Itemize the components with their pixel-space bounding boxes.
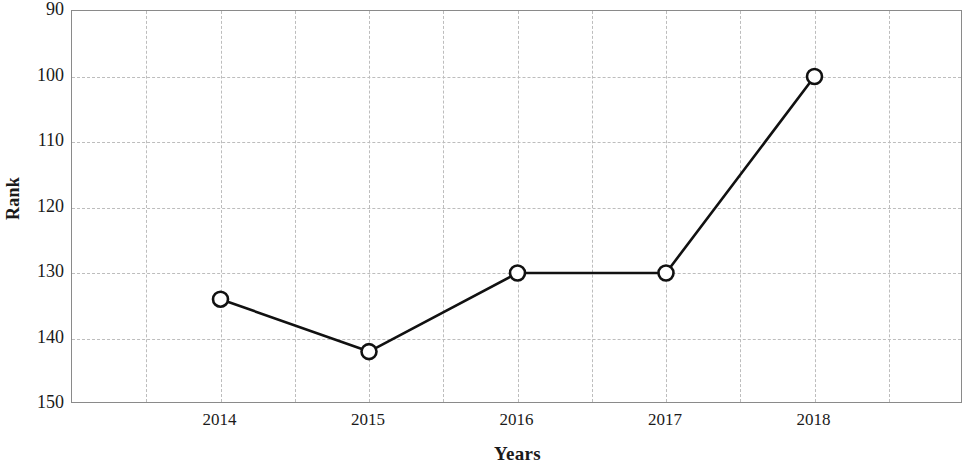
y-tick-label: 110 [0,131,64,149]
y-tick-label: 90 [0,0,64,18]
x-axis-title: Years [0,443,967,465]
y-tick-label: 100 [0,66,64,84]
rank-vs-years-line-chart: Rank 90100110120130140150 20142015201620… [0,0,967,472]
x-tick-label: 2016 [457,410,577,430]
data-point-marker [659,266,674,281]
y-tick-label: 140 [0,328,64,346]
rank-series-line [221,77,815,352]
data-point-marker [510,266,525,281]
plot-area [71,10,962,403]
y-tick-label: 150 [0,393,64,411]
x-tick-label: 2015 [308,410,428,430]
y-tick-label: 130 [0,262,64,280]
data-point-marker [362,344,377,359]
rank-series-markers [213,69,822,359]
x-tick-label: 2017 [605,410,725,430]
x-tick-label: 2014 [160,410,280,430]
data-point-marker [807,69,822,84]
x-tick-label: 2018 [754,410,874,430]
y-tick-label: 120 [0,197,64,215]
data-series-layer [72,11,963,404]
data-point-marker [213,292,228,307]
